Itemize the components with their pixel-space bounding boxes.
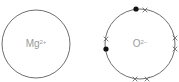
magnesium-charge: 2+ — [40, 39, 47, 45]
electron-dot-icon — [103, 46, 108, 51]
electron-dot-icon — [133, 6, 138, 11]
oxide-ion-label: O2− — [133, 39, 148, 49]
magnesium-symbol: Mg — [26, 38, 40, 49]
oxide-charge: 2− — [140, 39, 147, 45]
oxide-symbol: O — [133, 38, 141, 49]
magnesium-ion-label: Mg2+ — [26, 39, 47, 49]
